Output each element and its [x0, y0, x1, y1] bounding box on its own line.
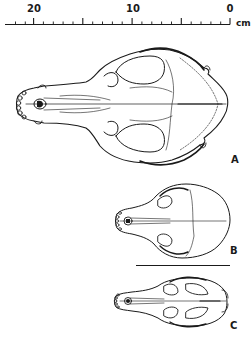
skull-a-drawing	[16, 48, 227, 164]
panel-label-b: B	[230, 245, 238, 256]
scale-label-20: 20	[27, 3, 41, 14]
skull-c-drawing	[114, 277, 228, 327]
figure-drawing	[0, 0, 252, 340]
panel-label-a: A	[231, 154, 239, 165]
skull-b-drawing	[116, 184, 231, 258]
scale-label-0: 0	[227, 3, 234, 14]
skull-figure: 20 10 0 cm A B C	[0, 0, 252, 340]
scale-bar	[5, 18, 230, 25]
panel-label-c: C	[230, 320, 237, 331]
scale-label-10: 10	[126, 3, 140, 14]
scale-unit-label: cm	[236, 18, 251, 28]
